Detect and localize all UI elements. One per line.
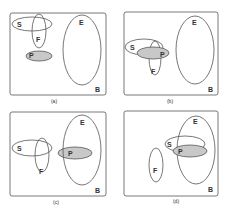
- panel-b: S P F E B (b): [124, 12, 218, 104]
- label-E: E: [193, 118, 198, 125]
- label-F: P: [160, 51, 165, 58]
- label-B: B: [95, 187, 100, 194]
- label-B: B: [208, 186, 213, 193]
- label-F: F: [39, 168, 44, 175]
- label-S: S: [17, 21, 22, 28]
- label-F: F: [153, 167, 158, 174]
- label-B: B: [95, 86, 100, 93]
- set-F-ellipse: [149, 148, 163, 182]
- panel-c: S F P E B (c): [10, 112, 106, 205]
- set-E-ellipse: [176, 16, 214, 84]
- label-E: E: [192, 19, 197, 26]
- label-E: E: [80, 119, 85, 126]
- label-F: F: [36, 36, 41, 43]
- label-P: F: [151, 68, 156, 75]
- label-E: E: [79, 19, 84, 26]
- label-S: S: [130, 44, 135, 51]
- caption-c: (c): [53, 199, 59, 205]
- caption-b: (b): [167, 98, 173, 104]
- label-P: P: [29, 52, 34, 59]
- panel-a: S F P E B (a): [10, 13, 106, 104]
- label-P: P: [68, 150, 73, 157]
- caption-a: (a): [51, 98, 57, 104]
- caption-d: (d): [173, 198, 179, 204]
- panel-d: S F P E B (d): [124, 111, 218, 204]
- label-B: B: [208, 86, 213, 93]
- label-S: S: [17, 145, 22, 152]
- label-P: P: [178, 148, 183, 155]
- universe-box-B: [10, 13, 106, 95]
- label-S: S: [167, 141, 172, 148]
- venn-diagram-figure: S F P E B (a) S P F E B (b) S F P E B (c…: [0, 0, 231, 216]
